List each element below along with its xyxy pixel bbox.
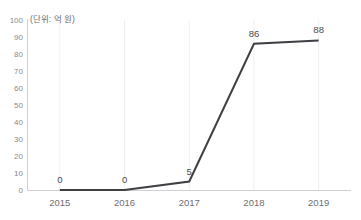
data-label-2015: 0	[43, 174, 77, 185]
data-label-2016: 0	[108, 174, 142, 185]
y-axis-tick-80: 80	[1, 50, 23, 59]
y-axis-tick-60: 60	[1, 84, 23, 93]
plot-area: (단위: 억 원) 1009080706050403020100 2015201…	[0, 0, 361, 220]
data-label-2017: 5	[172, 166, 206, 177]
y-axis-tick-50: 50	[1, 101, 23, 110]
gridlines	[60, 20, 319, 190]
y-axis-tick-10: 10	[1, 169, 23, 178]
y-axis-tick-20: 20	[1, 152, 23, 161]
unit-label: (단위: 억 원)	[30, 14, 75, 25]
y-axis-tick-70: 70	[1, 67, 23, 76]
x-axis-tick-2018: 2018	[228, 197, 280, 208]
y-axis-tick-40: 40	[1, 118, 23, 127]
data-label-2018: 86	[237, 28, 271, 39]
x-axis-tick-2019: 2019	[293, 197, 345, 208]
y-axis-tick-0: 0	[1, 186, 23, 195]
line-chart: (단위: 억 원) 1009080706050403020100 2015201…	[0, 0, 361, 220]
data-label-2019: 88	[302, 24, 336, 35]
x-axis-tick-2015: 2015	[34, 197, 86, 208]
y-axis-tick-100: 100	[1, 16, 23, 25]
y-axis-tick-90: 90	[1, 33, 23, 42]
x-axis-tick-2016: 2016	[99, 197, 151, 208]
y-axis-tick-30: 30	[1, 135, 23, 144]
x-axis-tick-2017: 2017	[163, 197, 215, 208]
